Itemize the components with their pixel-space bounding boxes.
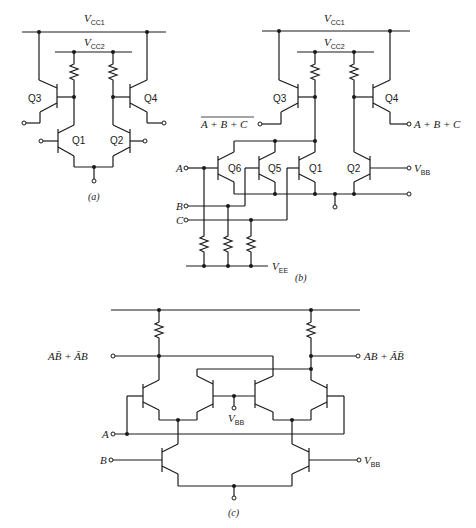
output-or-label: A + B + C: [413, 118, 461, 130]
q6-label: Q6: [228, 163, 242, 174]
input-a-label-c: A: [101, 428, 109, 440]
circuit-a: VCC1 VCC2 Q3 Q4 Q1 Q2 (a): [22, 12, 166, 203]
input-c-label-b: C: [176, 214, 184, 226]
circuit-diagrams: VCC1 VCC2 Q3 Q4 Q1 Q2 (a): [0, 0, 476, 528]
vbb-mid-label: VBB: [228, 412, 244, 426]
output-left-label: AB̄ + ĀB: [47, 350, 88, 362]
q1-label-a: Q1: [72, 135, 86, 146]
input-a-label-b: A: [175, 162, 183, 174]
q2-label-b: Q2: [347, 163, 361, 174]
q4-label-b: Q4: [385, 93, 399, 104]
vee-label: VEE: [272, 260, 288, 274]
q5-label: Q5: [268, 163, 282, 174]
q2-label-a: Q2: [110, 135, 124, 146]
output-right-label: AB + ĀB̄: [363, 350, 404, 362]
caption-b: (b): [295, 272, 307, 284]
vcc1-label-a: VCC1: [84, 12, 105, 26]
q3-label-b: Q3: [273, 93, 287, 104]
vcc2-label-a: VCC2: [84, 36, 105, 50]
q3-label-a: Q3: [28, 93, 42, 104]
q1-label-b: Q1: [309, 163, 323, 174]
circuit-c: AB̄ + ĀB AB + ĀB̄ VBB A B: [47, 308, 404, 519]
vcc1-label-b: VCC1: [324, 12, 345, 26]
circuit-b: VCC1 VCC2 A + B + C Q3 A + B + C Q4 Q6: [175, 12, 461, 284]
q4-label-a: Q4: [144, 93, 158, 104]
output-nor-label: A + B + C: [200, 118, 248, 130]
vbb-right-label: VBB: [364, 454, 380, 468]
input-b-label-b: B: [176, 200, 183, 212]
caption-c: (c): [228, 507, 240, 519]
vcc2-label-b: VCC2: [324, 36, 345, 50]
input-b-label-c: B: [100, 454, 107, 466]
vbb-label-b: VBB: [414, 162, 430, 176]
caption-a: (a): [88, 191, 100, 203]
